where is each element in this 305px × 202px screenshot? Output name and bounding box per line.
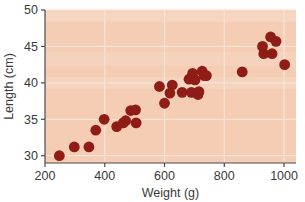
x-axis-title: Weight (g) xyxy=(142,186,199,200)
data-point xyxy=(120,115,131,126)
data-point xyxy=(154,81,165,92)
x-tick-label: 1000 xyxy=(270,169,298,183)
data-point xyxy=(237,67,248,78)
x-tick-label: 400 xyxy=(94,169,115,183)
data-point xyxy=(167,80,178,91)
data-point xyxy=(193,86,204,97)
y-axis-title: Length (cm) xyxy=(2,53,16,120)
data-point xyxy=(90,125,101,136)
x-tick-label: 200 xyxy=(35,169,56,183)
data-point xyxy=(69,142,80,153)
data-point xyxy=(99,114,110,125)
y-axis: 3035404550 xyxy=(24,3,45,163)
data-point xyxy=(279,59,290,70)
y-tick-label: 40 xyxy=(24,76,38,90)
data-point xyxy=(159,98,170,109)
x-tick-label: 600 xyxy=(154,169,175,183)
scatter-plot-figure: 30354045502004006008001000Weight (g)Leng… xyxy=(0,0,305,202)
data-point xyxy=(131,118,142,129)
data-point xyxy=(54,150,65,161)
x-axis: 2004006008001000 xyxy=(35,163,298,183)
y-tick-label: 30 xyxy=(24,149,38,163)
y-tick-label: 45 xyxy=(24,40,38,54)
y-tick-label: 50 xyxy=(24,3,38,17)
data-point xyxy=(130,104,141,115)
data-point xyxy=(271,36,282,47)
data-point xyxy=(84,142,95,153)
y-tick-label: 35 xyxy=(24,113,38,127)
data-point xyxy=(201,70,212,81)
data-point xyxy=(267,48,278,59)
chart-canvas: 30354045502004006008001000Weight (g)Leng… xyxy=(0,0,305,202)
data-point xyxy=(190,75,201,86)
x-tick-label: 800 xyxy=(214,169,235,183)
data-point xyxy=(177,87,188,98)
